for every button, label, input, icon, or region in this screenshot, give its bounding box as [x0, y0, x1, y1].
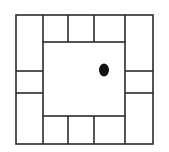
- ring-grid-diagram: [0, 0, 169, 152]
- inner-border: [43, 42, 125, 116]
- outer-border: [16, 15, 153, 144]
- grid-lines: [16, 15, 153, 144]
- dot-marker: [99, 64, 109, 77]
